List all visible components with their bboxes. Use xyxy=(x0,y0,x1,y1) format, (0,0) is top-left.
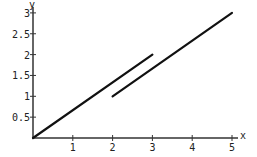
y-tick-label: 2 xyxy=(24,50,30,61)
axes: 123450.511.522.53 xyxy=(12,7,238,153)
y-tick-label: 0.5 xyxy=(12,112,30,123)
segment-1-line xyxy=(33,55,152,138)
y-tick-label: 1 xyxy=(24,91,30,102)
series-group xyxy=(33,13,232,138)
segment-2-line xyxy=(113,13,232,96)
line-chart: 123450.511.522.53 x y xyxy=(0,0,257,157)
x-tick-label: 5 xyxy=(229,142,235,153)
y-axis-label: y xyxy=(29,0,35,10)
x-tick-label: 1 xyxy=(70,142,76,153)
x-tick-label: 4 xyxy=(189,142,195,153)
x-axis-label: x xyxy=(240,130,246,141)
y-tick-label: 2.5 xyxy=(12,29,30,40)
x-tick-label: 3 xyxy=(149,142,155,153)
y-tick-label: 1.5 xyxy=(12,70,30,81)
x-tick-label: 2 xyxy=(110,142,116,153)
